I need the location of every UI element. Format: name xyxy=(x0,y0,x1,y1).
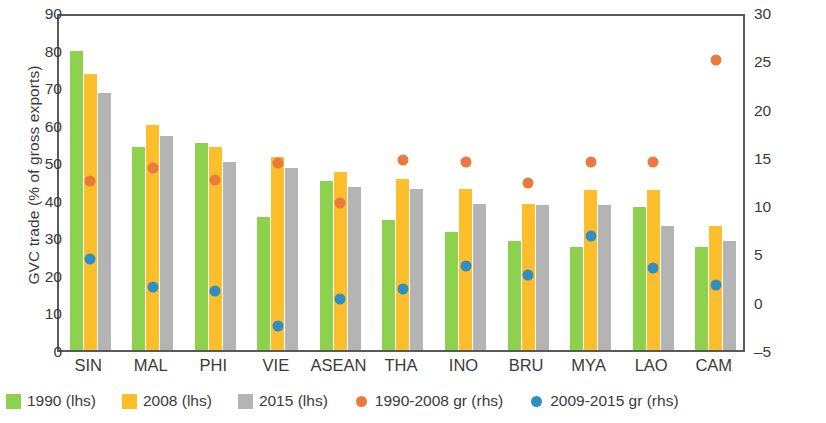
y-tick-left: 60 xyxy=(22,119,62,135)
chart-legend: 1990 (lhs)2008 (lhs)2015 (lhs)1990-2008 … xyxy=(6,392,824,410)
y-tick-left: 30 xyxy=(22,231,62,247)
x-axis-label-mal: MAL xyxy=(134,356,168,375)
bar xyxy=(70,51,83,350)
data-point xyxy=(398,283,409,294)
y-tick-left: 50 xyxy=(22,156,62,172)
bar xyxy=(146,125,159,350)
y-tick-left: 70 xyxy=(22,81,62,97)
bar xyxy=(445,232,458,350)
x-axis-label-vie: VIE xyxy=(263,356,290,375)
bar xyxy=(257,217,270,350)
legend-dot-icon xyxy=(356,396,367,407)
legend-item[interactable]: 2009-2015 gr (rhs) xyxy=(529,392,678,410)
x-axis-label-sin: SIN xyxy=(75,356,103,375)
x-axis-label-mya: MYA xyxy=(571,356,606,375)
data-point xyxy=(272,158,283,169)
bar xyxy=(410,189,423,350)
data-point xyxy=(523,177,534,188)
x-axis-label-tha: THA xyxy=(385,356,418,375)
legend-label: 1990 (lhs) xyxy=(27,392,96,410)
data-point xyxy=(460,260,471,271)
y-tick-left: 0 xyxy=(22,344,62,360)
y-tick-right: –5 xyxy=(754,344,794,360)
data-point xyxy=(335,197,346,208)
bar xyxy=(584,190,597,350)
y-tick-right: 30 xyxy=(754,6,794,22)
chart-figure: GVC trade (% of gross exports) average g… xyxy=(0,0,826,423)
legend-item[interactable]: 2008 (lhs) xyxy=(122,392,212,410)
legend-swatch-icon xyxy=(238,394,253,409)
data-point xyxy=(710,55,721,66)
bar xyxy=(195,143,208,350)
bar-group xyxy=(247,16,310,350)
bar xyxy=(348,187,361,350)
bar xyxy=(536,205,549,350)
data-point xyxy=(648,262,659,273)
y-tick-left: 40 xyxy=(22,194,62,210)
data-point xyxy=(85,175,96,186)
y-tick-right: 15 xyxy=(754,151,794,167)
y-tick-left: 90 xyxy=(22,6,62,22)
legend-label: 2009-2015 gr (rhs) xyxy=(550,392,678,410)
bar xyxy=(508,241,521,350)
legend-label: 2008 (lhs) xyxy=(143,392,212,410)
data-point xyxy=(398,155,409,166)
data-point xyxy=(272,320,283,331)
plot-area xyxy=(57,14,745,352)
data-point xyxy=(335,293,346,304)
legend-item[interactable]: 1990 (lhs) xyxy=(6,392,96,410)
plot-inner xyxy=(59,16,743,350)
bar xyxy=(695,247,708,350)
y-tick-right: 0 xyxy=(754,296,794,312)
y-tick-right: 5 xyxy=(754,247,794,263)
bar xyxy=(223,162,236,350)
x-axis-label-bru: BRU xyxy=(509,356,544,375)
bar xyxy=(723,241,736,350)
data-point xyxy=(85,253,96,264)
y-tick-right: 25 xyxy=(754,54,794,70)
bar xyxy=(396,179,409,350)
bar xyxy=(132,147,145,350)
bar xyxy=(473,204,486,350)
legend-item[interactable]: 2015 (lhs) xyxy=(238,392,328,410)
data-point xyxy=(585,157,596,168)
legend-swatch-icon xyxy=(122,394,137,409)
data-point xyxy=(147,163,158,174)
bar xyxy=(160,136,173,350)
data-point xyxy=(523,270,534,281)
bar xyxy=(382,220,395,350)
data-point xyxy=(460,157,471,168)
y-tick-right: 10 xyxy=(754,199,794,215)
x-axis-label-asean: ASEAN xyxy=(310,356,366,375)
bar-group xyxy=(684,16,747,350)
y-tick-left: 20 xyxy=(22,269,62,285)
bar xyxy=(661,226,674,350)
bar xyxy=(598,205,611,350)
bar xyxy=(285,168,298,350)
legend-swatch-icon xyxy=(6,394,21,409)
bar-group xyxy=(434,16,497,350)
y-tick-right: 20 xyxy=(754,103,794,119)
legend-item[interactable]: 1990-2008 gr (rhs) xyxy=(354,392,503,410)
data-point xyxy=(710,280,721,291)
data-point xyxy=(648,157,659,168)
x-axis-label-ino: INO xyxy=(449,356,478,375)
data-point xyxy=(210,174,221,185)
y-tick-left: 10 xyxy=(22,306,62,322)
x-axis-label-phi: PHI xyxy=(200,356,228,375)
bar xyxy=(320,181,333,350)
x-axis-label-cam: CAM xyxy=(695,356,732,375)
x-axis-label-lao: LAO xyxy=(635,356,668,375)
bar xyxy=(633,207,646,350)
bar xyxy=(84,74,97,350)
bar-group xyxy=(372,16,435,350)
bar xyxy=(98,93,111,350)
data-point xyxy=(147,281,158,292)
bar-group xyxy=(559,16,622,350)
bar-group xyxy=(122,16,185,350)
bar-group xyxy=(622,16,685,350)
bar xyxy=(570,247,583,350)
legend-label: 1990-2008 gr (rhs) xyxy=(375,392,503,410)
legend-label: 2015 (lhs) xyxy=(259,392,328,410)
y-tick-left: 80 xyxy=(22,44,62,60)
